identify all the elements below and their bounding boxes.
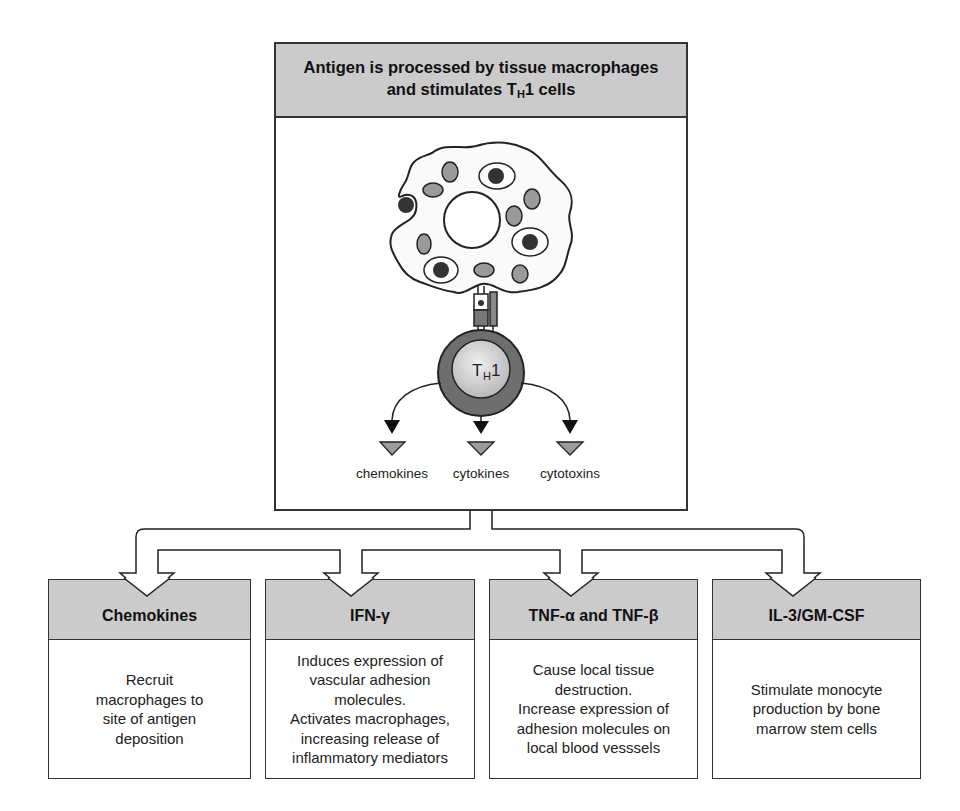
receptor-complex-icon <box>474 286 497 334</box>
arrowhead-icon <box>562 420 578 434</box>
effect-title-ifn-gamma: IFN-γ <box>266 580 474 640</box>
effect-box-il3-gmcsf: IL-3/GM-CSF Stimulate monocyte productio… <box>712 579 921 779</box>
effect-box-chemokines: Chemokines Recruit macrophages to site o… <box>48 579 251 779</box>
nucleus-icon <box>444 192 500 248</box>
arrowhead-icon <box>473 421 489 434</box>
svg-text:T: T <box>472 361 482 380</box>
effect-body-tnf: Cause local tissue destruction. Increase… <box>494 640 693 778</box>
macrophage-cell <box>390 142 572 292</box>
effect-title-il3-gmcsf: IL-3/GM-CSF <box>713 580 920 640</box>
effect-body-il3-gmcsf: Stimulate monocyte production by bone ma… <box>717 640 916 778</box>
svg-text:H: H <box>483 370 491 382</box>
effect-box-ifn-gamma: IFN-γ Induces expression of vascular adh… <box>265 579 475 779</box>
th1-cell: T H 1 <box>438 330 524 416</box>
product-label-chemokines: chemokines <box>342 466 442 481</box>
chemokines-triangle-icon <box>380 442 405 455</box>
cytotoxins-triangle-icon <box>557 442 583 455</box>
product-label-cytokines: cytokines <box>431 466 531 481</box>
cytokines-triangle-icon <box>468 442 494 455</box>
effect-title-chemokines: Chemokines <box>49 580 250 640</box>
effect-title-tnf: TNF-α and TNF-β <box>490 580 697 640</box>
svg-text:1: 1 <box>491 361 500 380</box>
effect-body-ifn-gamma: Induces expression of vascular adhesion … <box>270 640 470 778</box>
arrowhead-icon <box>384 420 400 434</box>
antigen-icon <box>398 197 414 213</box>
effect-box-tnf: TNF-α and TNF-β Cause local tissue destr… <box>489 579 698 779</box>
effect-body-chemokines: Recruit macrophages to site of antigen d… <box>53 640 246 778</box>
product-label-cytotoxins: cytotoxins <box>520 466 620 481</box>
